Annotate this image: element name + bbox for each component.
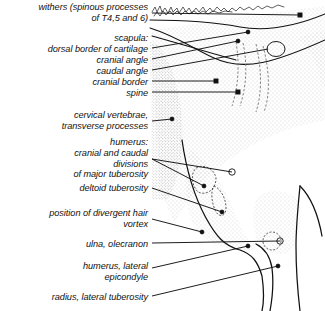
leader-terminal-cranial-angle — [236, 39, 240, 43]
label-cervical-vertebrae: cervical vertebrae, transverse processes — [0, 110, 148, 131]
leader-terminal-radius-tuberosity — [276, 264, 280, 268]
label-radius-tuberosity: radius, lateral tuberosity — [0, 292, 148, 303]
label-humerus: humerus: — [0, 137, 148, 148]
label-hair-vortex: position of divergent hair vortex — [0, 208, 148, 229]
label-cranial-border: cranial border — [0, 77, 148, 88]
leader-terminal-cranial-border — [214, 79, 218, 83]
leader-terminal-dorsal-border — [246, 30, 250, 34]
label-ulna-olecranon: ulna, olecranon — [0, 239, 148, 250]
leader-terminal-withers — [298, 13, 302, 17]
leader-terminal-lateral-epicondyle — [246, 244, 250, 248]
leader-terminal-deltoid-tuberosity — [220, 210, 224, 214]
label-caudal-angle: caudal angle — [0, 66, 148, 77]
label-deltoid-tuberosity: deltoid tuberosity — [0, 183, 148, 194]
label-dorsal-border: dorsal border of cartilage — [0, 44, 148, 55]
label-cranial-angle: cranial angle — [0, 55, 148, 66]
label-scapula: scapula: — [0, 33, 148, 44]
leader-line-lateral-epicondyle — [152, 246, 248, 268]
leader-terminal-spine — [236, 90, 240, 94]
label-withers: withers (spinous processes of T4,5 and 6… — [0, 2, 148, 23]
label-spine: spine — [0, 88, 148, 99]
label-lateral-epicondyle: humerus, lateral epicondyle — [0, 261, 148, 282]
leader-terminal-hair-vortex — [200, 230, 204, 234]
leader-terminal-major-tuberosity-b — [202, 184, 206, 188]
anatomy-figure: withers (spinous processes of T4,5 and 6… — [0, 0, 325, 311]
label-major-tuberosity: cranial and caudal divisions of major tu… — [0, 148, 148, 180]
leader-line-radius-tuberosity — [152, 266, 278, 296]
leader-terminal-cervical-vertebrae — [170, 117, 174, 121]
